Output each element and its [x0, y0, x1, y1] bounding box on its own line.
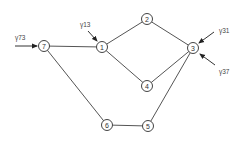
node-2: 2	[142, 14, 153, 25]
node-7: 7	[39, 41, 50, 52]
edge-5-3	[148, 48, 193, 126]
node-label: 3	[191, 45, 195, 52]
edge-2-3	[147, 19, 193, 48]
input-arrow-3	[200, 54, 215, 65]
network-diagram: γ73γ13γ31γ37 7123465	[0, 0, 245, 144]
node-label: 4	[145, 83, 149, 90]
edge-1-4	[102, 47, 147, 86]
edge-7-1	[44, 46, 102, 47]
node-1: 1	[97, 42, 108, 53]
input-label: γ13	[80, 21, 91, 29]
nodes-group: 7123465	[39, 14, 199, 132]
node-3: 3	[188, 43, 199, 54]
node-6: 6	[102, 120, 113, 131]
edge-1-2	[102, 19, 147, 47]
edges-group	[44, 19, 193, 126]
node-label: 2	[145, 16, 149, 23]
input-arrow-3	[199, 32, 214, 43]
node-5: 5	[143, 121, 154, 132]
edge-6-5	[107, 125, 148, 126]
input-arrow-1	[88, 31, 97, 41]
input-label: γ31	[219, 27, 230, 35]
input-label: γ37	[219, 68, 230, 76]
node-label: 6	[105, 122, 109, 129]
edge-7-6	[44, 46, 107, 125]
input-label: γ73	[15, 34, 26, 42]
edge-4-3	[147, 48, 193, 86]
node-label: 5	[146, 123, 150, 130]
node-label: 1	[100, 44, 104, 51]
node-label: 7	[42, 43, 46, 50]
node-4: 4	[142, 81, 153, 92]
